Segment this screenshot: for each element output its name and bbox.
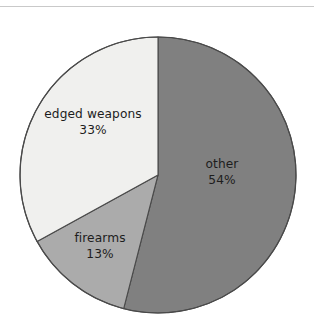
pie-label-edged-weapons: edged weapons 33%	[44, 106, 142, 138]
pie-chart-svg	[0, 0, 314, 325]
pie-label-edged-weapons-value: 33%	[44, 122, 142, 138]
pie-chart-plot-area	[0, 0, 314, 325]
pie-label-other-value: 54%	[206, 172, 239, 188]
pie-label-other-name: other	[206, 156, 239, 172]
pie-label-other: other 54%	[206, 156, 239, 188]
pie-label-edged-weapons-name: edged weapons	[44, 106, 142, 122]
pie-label-firearms-value: 13%	[74, 246, 125, 262]
pie-slice-group	[20, 37, 296, 313]
pie-label-firearms-name: firearms	[74, 230, 125, 246]
pie-chart-figure: other 54% edged weapons 33% firearms 13%	[0, 0, 314, 325]
pie-label-firearms: firearms 13%	[74, 230, 125, 262]
